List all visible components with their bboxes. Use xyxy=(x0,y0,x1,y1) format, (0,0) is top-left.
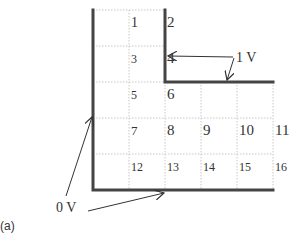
cell-number-8: 8 xyxy=(167,122,175,138)
cell-number-10: 10 xyxy=(239,122,254,138)
boundary-1v xyxy=(165,10,273,82)
cell-number-1: 1 xyxy=(131,15,138,30)
cell-number-4: 4 xyxy=(167,50,175,66)
cell-number-14: 14 xyxy=(203,160,215,174)
cell-number-9: 9 xyxy=(203,122,211,138)
one-volt-arrow-to-horizontal xyxy=(227,58,234,80)
zero-volt-arrow-to-bottom xyxy=(88,193,164,211)
zero-volt-annotation: 0 V xyxy=(56,117,164,215)
cell-number-6: 6 xyxy=(167,86,175,102)
laplace-grid-diagram: 12345678910111213141516 1 V 0 V (a) xyxy=(0,0,301,236)
cell-number-3: 3 xyxy=(131,52,137,66)
zero-volt-label: 0 V xyxy=(56,200,76,215)
cell-number-13: 13 xyxy=(167,160,179,174)
one-volt-arrow-to-vertical xyxy=(168,56,233,57)
cell-number-11: 11 xyxy=(275,122,289,138)
cell-number-15: 15 xyxy=(239,160,251,174)
one-volt-label: 1 V xyxy=(236,50,256,65)
one-volt-annotation: 1 V xyxy=(168,50,256,80)
cell-numbers: 12345678910111213141516 xyxy=(131,14,289,174)
figure-caption: (a) xyxy=(0,219,15,233)
cell-number-5: 5 xyxy=(131,88,137,102)
cell-number-7: 7 xyxy=(131,123,138,138)
cell-number-2: 2 xyxy=(167,14,175,30)
zero-volt-arrow-to-left xyxy=(66,117,92,196)
cell-number-12: 12 xyxy=(131,160,143,174)
cell-number-16: 16 xyxy=(275,160,287,174)
